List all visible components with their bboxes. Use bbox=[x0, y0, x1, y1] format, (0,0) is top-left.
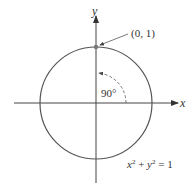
point-leader-line bbox=[100, 34, 128, 45]
point-0-1 bbox=[94, 45, 98, 49]
point-label: (0, 1) bbox=[131, 27, 155, 40]
unit-circle-diagram: y x (0, 1) 90° x2 + y2 = 1 bbox=[0, 0, 194, 185]
circle-equation: x2 + y2 = 1 bbox=[126, 158, 173, 170]
y-axis-label: y bbox=[91, 4, 98, 18]
x-axis-label: x bbox=[179, 96, 186, 110]
angle-label: 90° bbox=[101, 87, 116, 99]
